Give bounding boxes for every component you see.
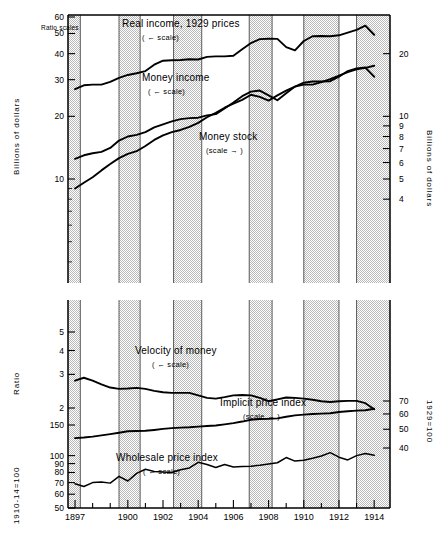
series-label-money-stock: Money stock <box>199 131 257 142</box>
scale-note-implicit-price-index: (scale → ) <box>243 412 280 421</box>
y-tick-label-top-right-10: 10 <box>399 111 408 121</box>
series-label-implicit-price-index: Implicit price index <box>220 397 306 408</box>
x-tick-label-1914: 1914 <box>358 512 390 522</box>
recession-band-bottom-2 <box>174 300 202 508</box>
y-tick-label-top-right-6: 6 <box>399 158 404 168</box>
scale-note-money-stock: (scale → ) <box>206 146 243 155</box>
y-tick-label-top-left-20: 20 <box>38 111 64 121</box>
y-tick-label-bottom-ratio-3: 3 <box>38 369 64 379</box>
recession-band-top-3 <box>249 15 272 283</box>
chart-canvas <box>0 0 447 541</box>
recession-band-top-0 <box>68 15 80 283</box>
y-tick-label-bottom-right-50: 50 <box>399 424 408 434</box>
y-tick-label-bottom-index-60: 60 <box>38 489 64 499</box>
x-tick-label-1902: 1902 <box>147 512 179 522</box>
scale-note-real-income: ( ← scale) <box>142 33 179 42</box>
x-tick-label-1904: 1904 <box>182 512 214 522</box>
y-tick-label-bottom-ratio-5: 5 <box>38 327 64 337</box>
x-tick-label-1910: 1910 <box>288 512 320 522</box>
y-tick-label-bottom-right-40: 40 <box>399 443 408 453</box>
y-tick-label-bottom-ratio-2: 2 <box>38 403 64 413</box>
y-tick-label-bottom-index-150: 150 <box>38 420 64 430</box>
y-tick-label-top-left-60: 60 <box>38 12 64 22</box>
y-tick-label-bottom-right-60: 60 <box>399 409 408 419</box>
series-label-velocity-of-money: Velocity of money <box>135 345 217 356</box>
series-label-real-income: Real income, 1929 prices <box>122 18 240 29</box>
recession-band-top-4 <box>304 15 339 283</box>
series-label-wholesale-price-index: Wholesale price index <box>116 452 218 463</box>
scale-note-velocity-of-money: ( ← scale) <box>152 360 189 369</box>
x-tick-label-1912: 1912 <box>323 512 355 522</box>
recession-band-bottom-1 <box>119 300 140 508</box>
y-tick-label-top-right-9: 9 <box>399 121 404 131</box>
y-tick-label-top-left-30: 30 <box>38 75 64 85</box>
y-tick-label-bottom-right-70: 70 <box>399 396 408 406</box>
recession-band-bottom-5 <box>357 300 390 508</box>
x-tick-label-1908: 1908 <box>253 512 285 522</box>
y-tick-label-top-left-50: 50 <box>38 28 64 38</box>
recession-band-top-2 <box>174 15 202 283</box>
y-tick-label-bottom-index-80: 80 <box>38 467 64 477</box>
y-tick-label-bottom-ratio-4: 4 <box>38 346 64 356</box>
x-tick-label-1906: 1906 <box>217 512 249 522</box>
bottom-left-index-axis-title: 1910-14=100 <box>12 467 21 524</box>
top-right-axis-title: Billions of dollars <box>425 130 434 207</box>
top-left-axis-title: Billions of dollars <box>12 98 21 175</box>
bottom-left-ratio-axis-title: Ratio <box>12 372 21 395</box>
y-tick-label-top-right-7: 7 <box>399 144 404 154</box>
x-tick-label-1897: 1897 <box>59 512 91 522</box>
y-tick-label-top-right-20: 20 <box>399 49 408 59</box>
recession-band-top-1 <box>119 15 140 283</box>
y-tick-label-bottom-index-70: 70 <box>38 478 64 488</box>
y-tick-label-top-right-8: 8 <box>399 132 404 142</box>
y-tick-label-top-left-10: 10 <box>38 174 64 184</box>
y-tick-label-top-right-5: 5 <box>399 174 404 184</box>
recession-band-bottom-0 <box>68 300 80 508</box>
bottom-right-axis-title: 1929=100 <box>425 400 434 443</box>
chart-figure: Billions of dollars Billions of dollars … <box>0 0 447 541</box>
scale-note-wholesale-price-index: ( ← scale) <box>143 467 180 476</box>
scale-note-money-income: ( ← scale) <box>148 87 185 96</box>
x-tick-label-1900: 1900 <box>112 512 144 522</box>
y-tick-label-top-left-40: 40 <box>38 49 64 59</box>
y-tick-label-top-right-4: 4 <box>399 194 404 204</box>
recession-band-bottom-4 <box>304 300 339 508</box>
series-label-money-income: Money income <box>142 72 209 83</box>
